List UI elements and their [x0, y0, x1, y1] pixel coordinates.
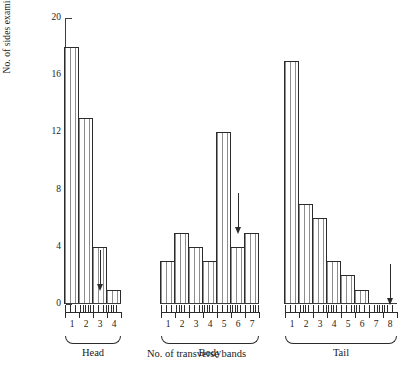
x-axis-category-label: 1 [285, 319, 299, 329]
arrow-shaft [390, 264, 391, 298]
x-axis-tick [121, 312, 122, 318]
x-axis-tick [161, 312, 162, 318]
arrow-head [235, 227, 241, 234]
arrow-head [97, 284, 103, 291]
bar[interactable] [202, 261, 217, 304]
bar-group-body: 1234567Body [161, 18, 259, 304]
bar[interactable] [160, 261, 175, 304]
x-axis-tick [203, 312, 204, 318]
x-axis-tick [231, 312, 232, 318]
x-axis-tick [355, 312, 356, 318]
y-axis-tick-label: 0 [35, 298, 61, 308]
bar[interactable] [326, 261, 341, 304]
x-axis-tick [65, 312, 66, 318]
x-axis-tick [327, 312, 328, 318]
y-axis-tick-label: 12 [35, 126, 61, 136]
x-axis-category-label: 7 [369, 319, 383, 329]
x-axis-category-label: 8 [383, 319, 397, 329]
bar[interactable] [230, 247, 245, 304]
bar[interactable] [354, 290, 369, 304]
x-axis-tick [313, 312, 314, 318]
bars-container [65, 18, 121, 304]
bar[interactable] [312, 218, 327, 304]
y-axis-tick-label: 20 [35, 12, 61, 22]
bar[interactable] [216, 132, 231, 304]
x-axis-category-label: 5 [341, 319, 355, 329]
x-axis-minor-ticks [65, 305, 121, 312]
x-axis-tick [299, 312, 300, 318]
bar[interactable] [188, 247, 203, 304]
bar[interactable] [284, 61, 299, 304]
x-axis-tick [383, 312, 384, 318]
y-axis-title: No. of sides examined [2, 0, 12, 110]
group-baseline [285, 303, 397, 304]
y-axis-tick-label: 4 [35, 241, 61, 251]
arrow-shaft [238, 193, 239, 227]
y-axis-tick-label: 16 [35, 69, 61, 79]
x-axis-category-label: 4 [203, 319, 217, 329]
bar[interactable] [244, 233, 259, 305]
x-axis-title: No. of transverse bands [0, 348, 393, 359]
x-axis-category-label: 6 [231, 319, 245, 329]
arrow-shaft [100, 250, 101, 284]
bars-container [161, 18, 259, 304]
x-axis-tick [93, 312, 94, 318]
x-axis-category-label: 3 [189, 319, 203, 329]
bars-container [285, 18, 397, 304]
x-axis-category-label: 3 [93, 319, 107, 329]
bar[interactable] [174, 233, 189, 305]
x-axis-category-label: 7 [245, 319, 259, 329]
bar[interactable] [106, 290, 121, 304]
plot-area: 1234Head1234567Body12345678Tail [65, 18, 385, 304]
x-axis-category-label: 5 [217, 319, 231, 329]
x-axis-category-label: 6 [355, 319, 369, 329]
x-axis-category-label: 2 [299, 319, 313, 329]
annotation-arrow-down-icon [96, 250, 105, 291]
x-axis-tick [107, 312, 108, 318]
bar[interactable] [298, 204, 313, 304]
group-brace [285, 336, 397, 344]
x-axis-category-label: 1 [65, 319, 79, 329]
x-axis-tick [259, 312, 260, 318]
x-axis-tick [245, 312, 246, 318]
x-axis-tick [79, 312, 80, 318]
x-axis-tick [369, 312, 370, 318]
x-axis-category-label: 1 [161, 319, 175, 329]
x-axis-tick [341, 312, 342, 318]
bar-group-tail: 12345678Tail [285, 18, 397, 304]
group-baseline [161, 303, 259, 304]
x-axis-tick [217, 312, 218, 318]
bar-group-head: 1234Head [65, 18, 121, 304]
x-axis-minor-ticks [285, 305, 397, 312]
x-axis-category-label: 2 [79, 319, 93, 329]
group-brace [161, 336, 259, 344]
x-axis-tick [175, 312, 176, 318]
x-axis-category-label: 4 [107, 319, 121, 329]
y-axis-tick-label: 8 [35, 184, 61, 194]
annotation-arrow-down-icon [234, 193, 243, 234]
annotation-arrow-down-icon [386, 264, 395, 305]
arrow-head [387, 298, 393, 305]
bar[interactable] [340, 275, 355, 304]
x-axis-category-label: 4 [327, 319, 341, 329]
x-axis-category-label: 2 [175, 319, 189, 329]
group-brace [65, 336, 121, 344]
x-axis-tick [285, 312, 286, 318]
x-axis-tick [189, 312, 190, 318]
bar[interactable] [64, 47, 79, 304]
x-axis-category-label: 3 [313, 319, 327, 329]
group-baseline [65, 303, 121, 304]
bar[interactable] [78, 118, 93, 304]
x-axis-minor-ticks [161, 305, 259, 312]
